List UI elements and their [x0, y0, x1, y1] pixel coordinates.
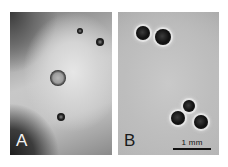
- particle-dark: [136, 26, 150, 40]
- scale-bar: 1 mm: [173, 139, 211, 150]
- particle-dark: [155, 29, 171, 45]
- particle-dark: [194, 115, 208, 129]
- particle-dark: [183, 100, 195, 112]
- particle-ring: [50, 70, 66, 86]
- scale-bar-line: [173, 148, 211, 150]
- panel-label-b: B: [124, 132, 135, 149]
- particle-dot: [77, 28, 83, 34]
- panel-label-a: A: [16, 132, 27, 149]
- scale-bar-label: 1 mm: [173, 139, 211, 147]
- particle-dot: [57, 113, 65, 121]
- particle-dot: [96, 38, 104, 46]
- particle-dark: [171, 111, 185, 125]
- micrograph-panel-b: B 1 mm: [118, 12, 219, 155]
- micrograph-panel-a: A: [10, 12, 112, 155]
